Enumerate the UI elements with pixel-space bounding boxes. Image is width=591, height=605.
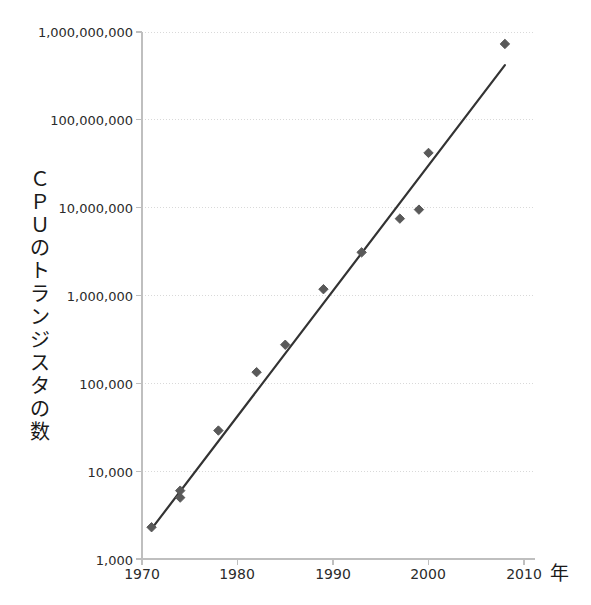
moores-law-chart: Ｃ Ｐ Ｕ の ト ラ ン ジ ス タ の 数 1,000,000,000 10…	[0, 0, 591, 605]
data-point-marker	[319, 284, 328, 293]
gridlines	[142, 32, 535, 559]
axis-lines	[142, 32, 535, 559]
tick-marks	[136, 32, 524, 565]
trendline	[152, 65, 505, 529]
data-point-marker	[500, 39, 509, 48]
data-point-marker	[414, 205, 423, 214]
plot-area	[0, 0, 591, 605]
data-point-marker	[424, 148, 433, 157]
data-point-marker	[214, 426, 223, 435]
data-points	[147, 39, 510, 532]
data-point-marker	[252, 367, 261, 376]
data-point-marker	[395, 214, 404, 223]
trendline-path	[152, 65, 505, 529]
